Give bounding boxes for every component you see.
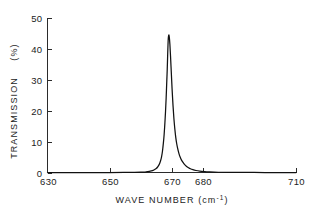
x-axis-title: WAVE NUMBER (cm-1) bbox=[115, 194, 228, 206]
x-tick-label-680: 680 bbox=[195, 176, 212, 187]
x-tick-label-670: 670 bbox=[164, 176, 181, 187]
y-tick-label-40: 40 bbox=[31, 44, 42, 55]
y-axis-title: TRANSMISSION bbox=[9, 77, 19, 159]
x-tick-label-630: 630 bbox=[40, 176, 57, 187]
y-tick-label-20: 20 bbox=[31, 106, 42, 117]
x-tick-label-650: 650 bbox=[102, 176, 119, 187]
transmission-spectrum-chart: 01020304050 630650670680710 WAVE NUMBER … bbox=[0, 0, 311, 214]
chart-figure: 01020304050 630650670680710 WAVE NUMBER … bbox=[0, 0, 311, 214]
y-tick-label-30: 30 bbox=[31, 75, 42, 86]
y-axis-units-label: (%) bbox=[9, 43, 19, 60]
y-tick-label-10: 10 bbox=[31, 137, 42, 148]
y-tick-label-50: 50 bbox=[31, 13, 42, 24]
x-tick-label-710: 710 bbox=[288, 176, 305, 187]
